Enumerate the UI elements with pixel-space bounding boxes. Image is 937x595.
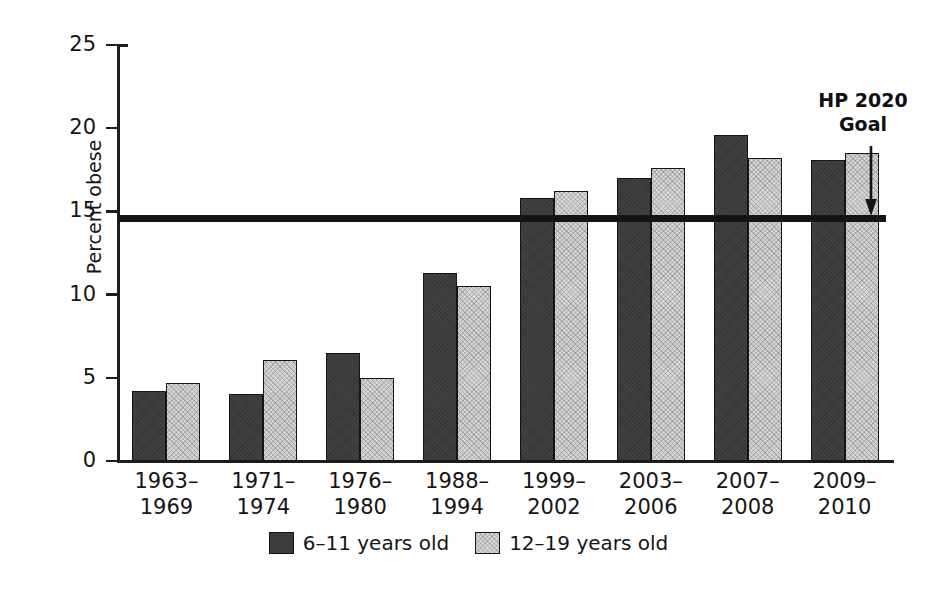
legend-item-label: 12–19 years old (509, 531, 668, 555)
x-axis-tick-label-line: 2010 (790, 494, 900, 520)
x-axis-tick-label-line: 1963– (111, 468, 221, 494)
x-axis-tick-label-line: 2007– (693, 468, 803, 494)
x-axis-tick-label: 1976–1980 (305, 468, 415, 520)
bar (748, 158, 782, 461)
x-axis-tick-label-line: 2002 (499, 494, 609, 520)
legend-item[interactable]: 12–19 years old (475, 531, 668, 555)
x-axis-tick-label-line: 1999– (499, 468, 609, 494)
bar (229, 394, 263, 461)
bar-group (714, 45, 782, 461)
x-axis-tick-label: 1988–1994 (402, 468, 512, 520)
plot-area (118, 45, 893, 461)
bar (132, 391, 166, 461)
x-axis-tick-label-line: 1969 (111, 494, 221, 520)
obesity-bar-chart: 0510152025 Percent obese HP 2020 Goal 19… (0, 0, 937, 595)
x-axis-tick-label-line: 2008 (693, 494, 803, 520)
down-arrow-icon (864, 146, 878, 218)
bar (520, 198, 554, 461)
x-axis-tick-label-line: 1994 (402, 494, 512, 520)
bar-group (423, 45, 491, 461)
hp-2020-goal-line (119, 215, 886, 222)
y-axis-tick (106, 460, 117, 463)
x-axis-tick-label: 2009–2010 (790, 468, 900, 520)
dark-bar-swatch (269, 532, 294, 554)
bar-group (617, 45, 685, 461)
x-axis-tick-label: 2003–2006 (596, 468, 706, 520)
bar (360, 378, 394, 461)
bar (811, 160, 845, 461)
y-axis-tick (106, 127, 117, 130)
x-axis-tick-label-line: 2009– (790, 468, 900, 494)
bar-group (132, 45, 200, 461)
hp-2020-goal-label: HP 2020 Goal (793, 88, 933, 136)
bar-group (229, 45, 297, 461)
y-axis-tick (106, 377, 117, 380)
y-axis-tick (106, 210, 117, 213)
bar (326, 353, 360, 461)
x-axis-tick-label-line: 2006 (596, 494, 706, 520)
bar (423, 273, 457, 461)
x-axis-tick-label-line: 2003– (596, 468, 706, 494)
y-axis-title: Percent obese (83, 107, 105, 307)
legend-item-label: 6–11 years old (303, 531, 449, 555)
bar (166, 383, 200, 461)
bar (554, 191, 588, 461)
y-axis-tick-label: 25 (52, 34, 96, 55)
bar (651, 168, 685, 461)
y-axis-tick (106, 293, 117, 296)
chart-legend: 6–11 years old12–19 years old (0, 531, 937, 555)
y-axis-tick-label: 0 (52, 450, 96, 471)
bar (714, 135, 748, 461)
x-axis-tick-label: 2007–2008 (693, 468, 803, 520)
bar (457, 286, 491, 461)
y-axis-tick (106, 44, 117, 47)
x-axis-tick-label-line: 1980 (305, 494, 415, 520)
x-axis-tick-label-line: 1974 (208, 494, 318, 520)
bar-group (520, 45, 588, 461)
hp-2020-goal-label-line-2: Goal (839, 113, 887, 135)
bar (263, 360, 297, 462)
x-axis-tick-label-line: 1971– (208, 468, 318, 494)
x-axis-tick-label-line: 1976– (305, 468, 415, 494)
light-bar-swatch (475, 532, 500, 554)
hp-2020-goal-label-line-1: HP 2020 (818, 89, 907, 111)
bar-group (326, 45, 394, 461)
x-axis-tick-label: 1963–1969 (111, 468, 221, 520)
x-axis-tick-label-line: 1988– (402, 468, 512, 494)
x-axis-tick-label: 1999–2002 (499, 468, 609, 520)
legend-item[interactable]: 6–11 years old (269, 531, 449, 555)
y-axis-tick-label: 5 (52, 367, 96, 388)
x-axis-tick-label: 1971–1974 (208, 468, 318, 520)
